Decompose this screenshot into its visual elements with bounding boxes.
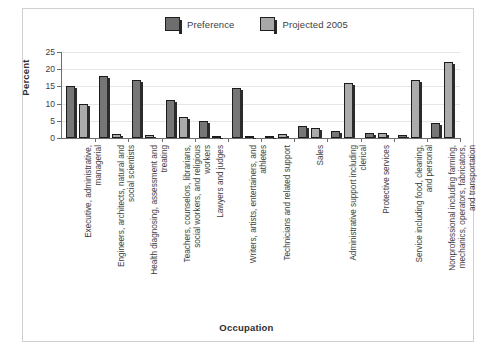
bar-projected-2005 [179, 117, 188, 138]
plot-area [62, 52, 460, 138]
y-tick-label-0: 0 [39, 134, 55, 143]
gridline-5 [62, 121, 460, 122]
bar-preference [99, 76, 108, 138]
x-tick-mark [361, 138, 362, 142]
category-label: Sales [316, 145, 326, 275]
bar-preference [398, 135, 407, 138]
gridline-20 [62, 69, 460, 70]
y-tick-label-5: 5 [39, 117, 55, 126]
gridline-25 [62, 52, 460, 53]
y-tick-label-20: 20 [39, 65, 55, 74]
bar-preference [232, 88, 241, 138]
bar-preference [166, 100, 175, 138]
x-tick-mark [427, 138, 428, 142]
legend-label-preference: Preference [187, 19, 234, 30]
y-tick-mark-5 [57, 121, 61, 122]
gridline-15 [62, 86, 460, 87]
y-tick-label-15: 15 [39, 82, 55, 91]
legend-entry-preference: Preference [165, 17, 234, 31]
category-label: Engineers, architects, natural and socia… [117, 145, 137, 275]
bar-preference [199, 121, 208, 138]
bar-projected-2005 [145, 135, 154, 138]
y-tick-label-10: 10 [39, 100, 55, 109]
bar-projected-2005 [245, 136, 254, 139]
legend-swatch-projected-2005 [260, 17, 275, 31]
x-tick-mark [128, 138, 129, 142]
x-tick-mark [162, 138, 163, 142]
category-label: Administrative support including clerica… [349, 145, 369, 275]
bar-projected-2005 [444, 62, 453, 138]
bar-preference [298, 126, 307, 138]
x-axis-title: Occupation [0, 322, 493, 333]
bar-projected-2005 [212, 136, 221, 139]
y-tick-label-25: 25 [39, 48, 55, 57]
gridline-10 [62, 104, 460, 105]
bar-projected-2005 [378, 133, 387, 138]
category-label: Teachers, counselors, librarians, social… [183, 145, 213, 275]
bar-projected-2005 [311, 128, 320, 138]
x-tick-mark [228, 138, 229, 142]
bar-preference [331, 131, 340, 138]
bar-preference [431, 123, 440, 138]
bar-preference [66, 86, 75, 138]
chart-figure: Preference Projected 2005 Percent 051015… [0, 0, 493, 359]
x-tick-mark [95, 138, 96, 142]
y-tick-mark-25 [57, 52, 61, 53]
category-label: Service including food, cleaning, and pe… [415, 145, 435, 275]
legend-swatch-preference [165, 17, 180, 31]
y-tick-mark-20 [57, 69, 61, 70]
bar-projected-2005 [79, 104, 88, 138]
bar-projected-2005 [278, 134, 287, 138]
category-label: Technicians and related support [283, 145, 293, 275]
x-tick-mark [394, 138, 395, 142]
x-tick-mark [294, 138, 295, 142]
bar-projected-2005 [411, 80, 420, 138]
bar-preference [265, 136, 274, 139]
x-tick-mark [327, 138, 328, 142]
category-label: Lawyers and judges [216, 145, 226, 275]
x-tick-mark [261, 138, 262, 142]
x-tick-mark [195, 138, 196, 142]
y-tick-mark-10 [57, 104, 61, 105]
category-label: Executive, administrative, managerial [84, 145, 104, 275]
category-label: Nonprofessional including farming, mecha… [448, 145, 478, 275]
category-label: Writers, artists, entertainers, and athl… [249, 145, 269, 275]
bar-preference [365, 133, 374, 138]
legend-label-projected-2005: Projected 2005 [282, 19, 347, 30]
y-tick-mark-15 [57, 86, 61, 87]
chart-legend: Preference Projected 2005 [165, 17, 348, 31]
bar-preference [132, 80, 141, 138]
y-axis-title: Percent [20, 50, 31, 106]
category-label: Protective services [382, 145, 392, 275]
category-label: Health diagnosing, assessment and treati… [150, 145, 170, 275]
legend-entry-projected-2005: Projected 2005 [260, 17, 347, 31]
bar-projected-2005 [112, 134, 121, 138]
bar-projected-2005 [344, 83, 353, 138]
y-tick-mark-0 [57, 138, 61, 139]
x-tick-mark [460, 138, 461, 142]
